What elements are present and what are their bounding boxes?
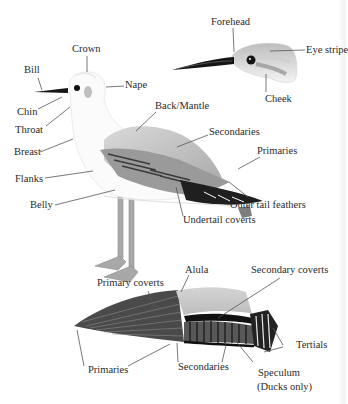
- label-eye-stripe: Eye stripe: [306, 44, 348, 56]
- label-bill: Bill: [24, 64, 40, 76]
- label-crown: Crown: [72, 43, 101, 55]
- legs: [95, 196, 138, 282]
- label-primary-coverts: Primary coverts: [97, 277, 164, 289]
- label-breast: Breast: [14, 146, 41, 158]
- label-speculum: Speculum: [258, 367, 300, 379]
- head-detail-illustration: [172, 43, 297, 82]
- label-secondaries: Secondaries: [209, 126, 260, 138]
- label-ducks-only: (Ducks only): [257, 381, 312, 393]
- label-back-mantle: Back/Mantle: [155, 100, 209, 112]
- label-wing-secondaries: Secondaries: [178, 361, 229, 373]
- label-secondary-coverts: Secondary coverts: [251, 264, 328, 276]
- label-primaries: Primaries: [257, 145, 297, 157]
- label-undertail-coverts: Undertail coverts: [183, 214, 256, 226]
- label-throat: Throat: [15, 124, 43, 136]
- label-belly: Belly: [30, 199, 53, 211]
- label-outer-tail-feathers: Outer tail feathers: [230, 199, 306, 211]
- label-flanks: Flanks: [15, 173, 43, 185]
- spread-wing-illustration: [74, 287, 278, 352]
- label-tertials: Tertials: [296, 339, 327, 351]
- label-chin: Chin: [17, 106, 37, 118]
- label-alula: Alula: [185, 264, 208, 276]
- label-cheek: Cheek: [265, 93, 292, 105]
- standing-gull-illustration: [34, 72, 263, 282]
- label-wing-primaries: Primaries: [88, 364, 128, 376]
- label-forehead: Forehead: [211, 16, 250, 28]
- label-nape: Nape: [125, 79, 147, 91]
